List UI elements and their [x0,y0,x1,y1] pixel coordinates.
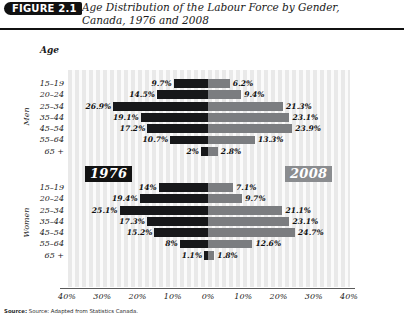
bar-value-label-2008: 24.7% [298,227,324,238]
bar-2008-men [208,147,218,156]
bar-value-label-2008: 21.1% [285,205,311,216]
x-tick-label: 10% [156,292,190,301]
source-label: Source: [4,308,27,314]
bar-value-label-1976: 19.4% [112,193,138,204]
bar-value-label-2008: 7.1% [236,182,256,193]
chart-row: 14.5%9.4% [68,89,350,100]
bar-1976-men [170,136,208,145]
x-tick-label: 20% [121,292,155,301]
x-tick-label: 20% [262,292,296,301]
age-tick-label: 15–19 [30,182,64,193]
chart-row: 9.7%6.2% [68,78,350,89]
x-tick-label: 30% [85,292,119,301]
bar-1976-men [157,90,208,99]
bar-1976-men [147,124,208,133]
panel-men: 9.7%6.2%14.5%9.4%26.9%21.3%19.1%23.1%17.… [68,78,350,161]
bar-2008-women [208,183,233,192]
chart-row: 19.1%23.1% [68,112,350,123]
bar-1976-women [120,206,208,215]
bar-value-label-1976: 9.7% [151,78,171,89]
chart-row: 8%12.6% [68,238,350,249]
figure-title-line-2: Canada, 1976 and 2008 [82,14,382,27]
bar-value-label-1976: 17.2% [120,123,146,134]
bar-2008-women [208,194,242,203]
bar-2008-men [208,124,292,133]
x-tick-label: 10% [226,292,260,301]
header-divider [0,28,404,30]
figure-header: FIGURE 2.1 Age Distribution of the Labou… [0,0,404,30]
figure-title: Age Distribution of the Labour Force by … [82,1,382,26]
bar-2008-men [208,102,283,111]
chart-row: 15.2%24.7% [68,227,350,238]
age-tick-label: 45–54 [30,123,64,134]
bar-2008-men [208,136,255,145]
age-tick-label: 65 + [30,146,64,157]
bar-2008-women [208,228,295,237]
x-tick-label: 30% [297,292,331,301]
x-axis-line [60,288,355,289]
bar-value-label-1976: 2% [186,146,199,157]
bar-2008-men [208,79,230,88]
bar-1976-men [201,147,208,156]
panel-women: 14%7.1%19.4%9.7%25.1%21.1%17.3%23.1%15.2… [68,182,350,265]
bar-value-label-2008: 9.7% [245,193,265,204]
bar-value-label-2008: 23.1% [292,216,318,227]
bar-value-label-1976: 26.9% [85,101,111,112]
bar-value-label-2008: 21.3% [286,101,312,112]
bar-value-label-1976: 19.1% [113,112,139,123]
age-tick-labels-men: 15–1920–2425–3435–4445–5455–6465 + [30,78,64,157]
bar-1976-women [159,183,208,192]
age-tick-labels-women: 15–1920–2425–3435–4445–5455–6465 + [30,182,64,261]
age-tick-label: 20–24 [30,89,64,100]
age-tick-label: 15–19 [30,78,64,89]
x-tick-label: 40% [50,292,84,301]
bar-2008-men [208,90,241,99]
age-tick-label: 25–34 [30,205,64,216]
chart-row: 26.9%21.3% [68,101,350,112]
bar-value-label-1976: 14% [139,182,157,193]
bar-value-label-1976: 1.1% [182,250,202,261]
bar-1976-women [140,194,208,203]
bar-1976-men [174,79,208,88]
figure-title-line-1: Age Distribution of the Labour Force by … [82,1,382,14]
chart-row: 14%7.1% [68,182,350,193]
age-tick-label: 25–34 [30,101,64,112]
age-tick-label: 55–64 [30,238,64,249]
age-tick-label: 65 + [30,250,64,261]
bar-2008-men [208,113,289,122]
bar-value-label-2008: 1.8% [217,250,237,261]
bar-value-label-1976: 25.1% [92,205,118,216]
chart-row: 17.3%23.1% [68,216,350,227]
bar-2008-women [208,217,289,226]
source-note: Source: Source: Adapted from Statistics … [4,308,400,316]
bar-value-label-2008: 23.1% [292,112,318,123]
legend-badge-1976: 1976 [85,166,132,182]
bar-value-label-1976: 10.7% [143,134,169,145]
age-axis-title: Age [40,45,59,55]
bar-value-label-2008: 9.4% [244,89,264,100]
chart-row: 17.2%23.9% [68,123,350,134]
bar-value-label-1976: 15.2% [127,227,153,238]
bar-2008-women [208,240,252,249]
chart-row: 1.1%1.8% [68,250,350,261]
bar-value-label-1976: 8% [165,238,178,249]
bar-value-label-2008: 2.8% [221,146,241,157]
chart-row: 10.7%13.3% [68,134,350,145]
bar-2008-women [208,206,282,215]
age-tick-label: 35–44 [30,112,64,123]
bar-value-label-2008: 23.9% [295,123,321,134]
bar-1976-men [141,113,208,122]
bar-value-label-2008: 6.2% [233,78,253,89]
bar-value-label-2008: 13.3% [258,134,284,145]
age-tick-label: 45–54 [30,227,64,238]
bar-1976-women [180,240,208,249]
bar-2008-women [208,251,214,260]
chart-row: 2%2.8% [68,146,350,157]
bar-value-label-1976: 14.5% [129,89,155,100]
source-text: Source: Adapted from Statistics Canada. [29,308,138,314]
chart-row: 19.4%9.7% [68,193,350,204]
bar-1976-women [154,228,208,237]
chart-row: 25.1%21.1% [68,205,350,216]
age-tick-label: 35–44 [30,216,64,227]
legend-badge-2008: 2008 [285,166,332,182]
